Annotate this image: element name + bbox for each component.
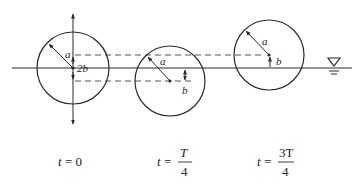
radius-label: a (65, 48, 71, 60)
svg-text:4: 4 (282, 164, 289, 179)
time-label-t0: t = 0 (58, 154, 82, 169)
svg-text:4: 4 (181, 164, 188, 179)
circle-t0: a 2b (37, 14, 109, 124)
radius-label: a (160, 55, 166, 67)
radius-arrow (148, 57, 170, 81)
offset-label: 2b (77, 62, 89, 74)
heaving-cylinder-diagram: a 2b a b a b t = 0 t = T 4 t = 3T 4 (0, 0, 361, 185)
radius-label: a (262, 35, 268, 47)
time-label-tT4: t = T 4 (157, 145, 192, 179)
offset-label: b (276, 55, 282, 67)
svg-text:t =: t = (157, 154, 171, 169)
svg-text:3T: 3T (279, 145, 294, 160)
free-surface-triangle-icon (328, 58, 340, 74)
time-label-t3T4: t = 3T 4 (257, 145, 294, 179)
svg-text:t =: t = (257, 154, 271, 169)
svg-text:t = 0: t = 0 (58, 154, 82, 169)
circle-t3T4: a b (234, 20, 304, 90)
svg-text:T: T (180, 145, 188, 160)
offset-label: b (182, 84, 188, 96)
